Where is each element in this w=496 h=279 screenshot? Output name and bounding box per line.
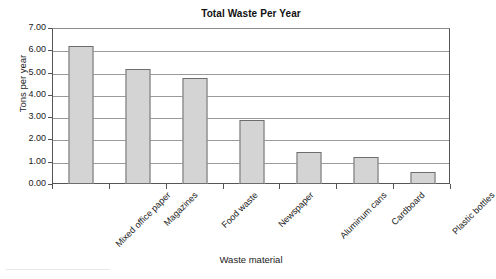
y-tick-mark	[48, 73, 52, 74]
x-category-label: Cardboard	[389, 190, 426, 227]
x-axis-title: Waste material	[52, 254, 450, 265]
bar[interactable]	[410, 172, 435, 184]
y-tick-label: 2.00	[10, 133, 46, 143]
y-tick-label: 7.00	[10, 22, 46, 32]
bar-slot	[110, 29, 167, 184]
bar-slot	[224, 29, 281, 184]
y-tick-label: 5.00	[10, 67, 46, 77]
x-tick-mark	[393, 184, 394, 189]
x-category-label: Food waste	[220, 190, 260, 230]
x-category-label: Plastic bottles	[450, 190, 496, 236]
bar-slot	[280, 29, 337, 184]
x-category-label: Aluminum cans	[338, 190, 389, 241]
y-tick-mark	[48, 95, 52, 96]
bar[interactable]	[353, 157, 378, 184]
x-tick-mark	[279, 184, 280, 189]
bar[interactable]	[183, 78, 208, 184]
scan-artifact	[6, 269, 110, 270]
bar-slot	[337, 29, 394, 184]
x-tick-mark	[450, 184, 451, 189]
bar-slot	[53, 29, 110, 184]
x-tick-mark	[109, 184, 110, 189]
x-category-label: Newspaper	[276, 190, 315, 229]
y-tick-label: 4.00	[10, 89, 46, 99]
bar[interactable]	[126, 69, 151, 184]
y-axis-title: Tons per year	[17, 24, 28, 144]
x-tick-mark	[223, 184, 224, 189]
bar-slot	[394, 29, 451, 184]
chart-title: Total Waste Per Year	[52, 8, 450, 19]
bar[interactable]	[69, 46, 94, 184]
y-tick-mark	[48, 50, 52, 51]
bar[interactable]	[296, 152, 321, 184]
y-tick-label: 3.00	[10, 111, 46, 121]
y-tick-label: 6.00	[10, 44, 46, 54]
x-tick-mark	[52, 184, 53, 189]
y-tick-mark	[48, 162, 52, 163]
bar[interactable]	[239, 120, 264, 184]
bar-slot	[167, 29, 224, 184]
y-tick-mark	[48, 139, 52, 140]
y-tick-mark	[48, 117, 52, 118]
y-tick-label: 1.00	[10, 156, 46, 166]
x-tick-mark	[166, 184, 167, 189]
x-tick-mark	[336, 184, 337, 189]
y-tick-mark	[48, 28, 52, 29]
bars-layer	[53, 29, 449, 184]
y-tick-label: 0.00	[10, 178, 46, 188]
